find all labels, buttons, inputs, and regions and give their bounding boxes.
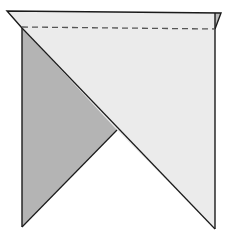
origami-fold-diagram — [0, 0, 229, 237]
top-flap — [7, 11, 221, 29]
